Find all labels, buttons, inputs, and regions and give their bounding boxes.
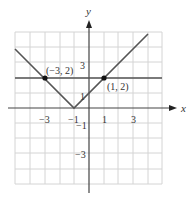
point-right bbox=[101, 75, 106, 80]
y-axis-arrow-icon bbox=[86, 20, 92, 28]
point-left bbox=[42, 75, 47, 80]
x-axis-arrow-icon bbox=[169, 105, 177, 111]
point-left-label: (−3, 2) bbox=[46, 65, 73, 77]
axes bbox=[8, 26, 172, 193]
y-tick-label: 1 bbox=[80, 91, 85, 102]
y-tick-label: 3 bbox=[80, 60, 85, 71]
x-axis-label: x bbox=[180, 102, 186, 114]
point-right-label: (1, 2) bbox=[107, 81, 129, 93]
x-tick-label: 1 bbox=[102, 114, 107, 125]
y-tick-label: −1 bbox=[76, 120, 87, 131]
x-tick-label: −3 bbox=[39, 114, 50, 125]
y-tick-label: −3 bbox=[75, 149, 86, 160]
y-axis-label: y bbox=[85, 5, 91, 17]
x-tick-label: 3 bbox=[131, 114, 136, 125]
graph: x y −3 −1 1 3 3 1 −1 −3 (−3, 2) (1, 2) bbox=[0, 0, 193, 198]
